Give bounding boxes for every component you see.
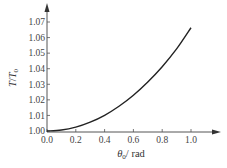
series-curve bbox=[47, 28, 191, 131]
x-tick-label: 1.0 bbox=[185, 135, 197, 145]
x-tick-label: 0.0 bbox=[41, 135, 53, 145]
y-tick-label: 1.02 bbox=[28, 95, 45, 105]
x-axis-arrow-icon bbox=[212, 130, 221, 135]
y-tick-label: 1.00 bbox=[28, 126, 45, 136]
y-tick-label: 1.03 bbox=[28, 80, 45, 90]
axes bbox=[45, 3, 222, 135]
chart: 0.00.20.40.60.81.01.001.011.021.031.041.… bbox=[0, 0, 227, 168]
y-tick-label: 1.04 bbox=[28, 64, 45, 74]
x-tick-label: 0.4 bbox=[99, 135, 111, 145]
ticks: 0.00.20.40.60.81.01.001.011.021.031.041.… bbox=[28, 17, 197, 145]
x-tick-label: 0.6 bbox=[127, 135, 139, 145]
x-axis-label: θ0/ rad bbox=[117, 148, 145, 161]
y-tick-label: 1.07 bbox=[28, 17, 45, 27]
x-tick-label: 0.2 bbox=[70, 135, 82, 145]
y-axis-label: T/T0 bbox=[7, 68, 20, 87]
y-axis-arrow-icon bbox=[45, 3, 50, 12]
y-tick-label: 1.05 bbox=[28, 48, 45, 58]
x-tick-label: 0.8 bbox=[156, 135, 168, 145]
y-tick-label: 1.06 bbox=[28, 33, 45, 43]
curve-layer bbox=[47, 28, 191, 131]
y-tick-label: 1.01 bbox=[28, 111, 45, 121]
